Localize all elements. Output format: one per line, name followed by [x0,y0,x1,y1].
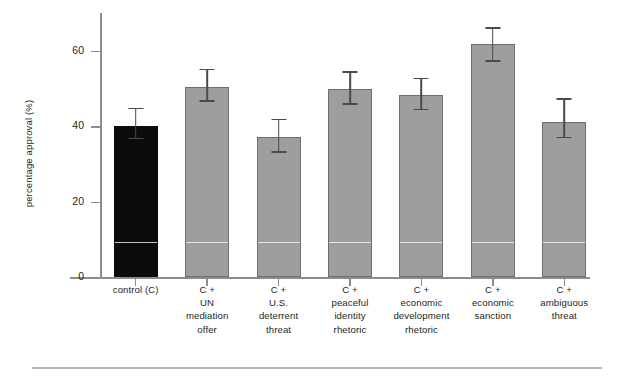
bar-2[interactable] [257,137,301,277]
error-bar-line-4 [421,79,423,110]
x-axis-label-line: C + [523,283,606,296]
error-bar-line-1 [206,70,208,101]
bar-3[interactable] [328,89,372,277]
plot-area: 0204060 [100,13,600,277]
bar-5[interactable] [471,44,515,277]
bar-group[interactable] [399,13,443,277]
error-bar-cap-upper-3 [343,71,358,73]
error-bar-cap-upper-0 [128,108,143,110]
y-tick-0 [91,277,100,278]
bar-group[interactable] [257,13,301,277]
y-axis-label: percentage approval (%) [23,74,34,234]
bar-internal-rule [329,242,371,243]
error-bar-cap-upper-6 [557,98,572,100]
error-bar-cap-upper-1 [200,69,215,71]
y-tick-label-60: 60 [56,44,84,56]
error-bar-cap-lower-5 [485,60,500,62]
x-axis-label-6: C +ambiguousthreat [523,283,606,323]
bar-series [100,13,600,277]
y-tick-60 [91,51,100,52]
error-bar-cap-lower-6 [557,137,572,139]
y-tick-label-0: 0 [56,270,84,282]
error-bar-cap-lower-4 [414,109,429,111]
bar-6[interactable] [542,122,586,277]
y-tick-label-40: 40 [56,119,84,131]
error-bar-line-6 [563,100,565,138]
y-tick-40 [91,126,100,127]
x-axis-label-line: rhetoric [380,323,463,336]
y-tick-label-20: 20 [56,195,84,207]
bar-internal-rule [543,242,585,243]
error-bar-cap-upper-4 [414,78,429,80]
error-bar-cap-lower-0 [128,138,143,140]
bar-internal-rule [186,242,228,243]
bar-group[interactable] [542,13,586,277]
error-bar-line-5 [492,29,494,62]
bar-internal-rule [258,242,300,243]
error-bar-line-0 [135,109,137,139]
x-axis-label-line: ambiguous [523,296,606,309]
error-bar-cap-lower-3 [343,103,358,105]
error-bar-cap-lower-2 [271,151,286,153]
bar-internal-rule [400,242,442,243]
bar-chart-figure: percentage approval (%) 0204060 control … [0,0,622,376]
error-bar-line-3 [349,73,351,105]
bar-0[interactable] [114,126,158,277]
error-bar-cap-upper-2 [271,119,286,121]
bar-internal-rule [115,242,157,243]
bar-group[interactable] [185,13,229,277]
bar-group[interactable] [114,13,158,277]
bottom-divider-rule [32,367,602,369]
bar-group[interactable] [471,13,515,277]
y-tick-20 [91,202,100,203]
bar-1[interactable] [185,87,229,277]
error-bar-cap-upper-5 [485,27,500,29]
bar-group[interactable] [328,13,372,277]
bar-4[interactable] [399,95,443,277]
error-bar-line-2 [278,120,280,153]
error-bar-cap-lower-1 [200,100,215,102]
bar-internal-rule [472,242,514,243]
x-axis-line [70,277,590,279]
x-axis-labels: control (C)C +UNmediationofferC +U.S.det… [100,283,600,353]
x-axis-label-line: threat [523,309,606,322]
